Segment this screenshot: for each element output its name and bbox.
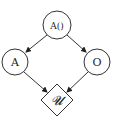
node-right-label: O [92, 56, 101, 69]
edge-left-utility [24, 72, 47, 92]
edge-top-right [67, 35, 86, 52]
node-top-label: A() [49, 21, 64, 31]
node-left: A [2, 49, 28, 75]
node-top: A() [43, 11, 71, 39]
edge-right-utility [67, 72, 88, 92]
edge-top-left [26, 35, 47, 52]
node-utility: 𝓤 [41, 84, 73, 116]
diagram-canvas: A() A O 𝓤 [0, 0, 114, 123]
node-right: O [84, 49, 110, 75]
node-left-label: A [10, 56, 20, 69]
